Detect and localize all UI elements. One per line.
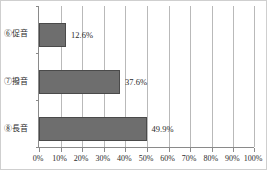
x-tick-label-0: 0% — [33, 155, 44, 163]
category-label-1: ⑦撥音 — [4, 78, 37, 86]
y-tick-1 — [36, 53, 39, 54]
gridline-90 — [233, 6, 234, 147]
x-tick-10 — [61, 148, 62, 152]
gridline-70 — [190, 6, 191, 147]
x-tick-70 — [190, 148, 191, 152]
x-tick-label-50: 50% — [139, 155, 154, 163]
x-tick-0 — [39, 148, 40, 152]
x-tick-label-100: 100% — [244, 155, 263, 163]
bar-value-1: 37.6% — [125, 78, 147, 87]
x-tick-50 — [147, 148, 148, 152]
x-tick-90 — [233, 148, 234, 152]
x-tick-label-60: 60% — [160, 155, 175, 163]
x-tick-label-90: 90% — [225, 155, 240, 163]
plot-area: 12.6% 37.6% 49.9% — [38, 6, 254, 148]
bar-value-0: 12.6% — [71, 31, 93, 40]
x-tick-60 — [169, 148, 170, 152]
horizontal-bar-chart: ⑥促音 ⑦撥音 ⑧長音 12.6% — [0, 0, 267, 170]
gridline-80 — [212, 6, 213, 147]
y-tick-0 — [36, 6, 39, 7]
x-tick-label-30: 30% — [95, 155, 110, 163]
x-tick-label-40: 40% — [117, 155, 132, 163]
x-tick-label-20: 20% — [74, 155, 89, 163]
category-label-0: ⑥促音 — [4, 30, 37, 38]
gridline-50 — [147, 6, 148, 147]
bar-value-2: 49.9% — [152, 125, 174, 134]
y-tick-2 — [36, 100, 39, 101]
x-tick-label-80: 80% — [203, 155, 218, 163]
x-tick-100 — [254, 148, 255, 152]
bar-2 — [39, 117, 147, 141]
x-tick-label-70: 70% — [182, 155, 197, 163]
bar-0 — [39, 23, 66, 47]
x-tick-20 — [82, 148, 83, 152]
x-tick-40 — [125, 148, 126, 152]
x-tick-30 — [104, 148, 105, 152]
x-tick-label-10: 10% — [52, 155, 67, 163]
gridline-100 — [254, 6, 255, 147]
x-tick-80 — [212, 148, 213, 152]
bar-1 — [39, 70, 120, 94]
category-label-2: ⑧長音 — [4, 125, 37, 133]
